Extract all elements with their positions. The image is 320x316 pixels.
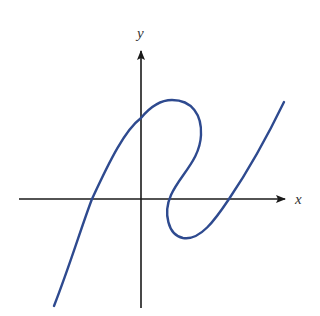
y-axis-label: y xyxy=(135,25,144,41)
curve xyxy=(54,100,284,306)
x-axis-label: x xyxy=(294,191,302,207)
diagram-canvas: x y xyxy=(0,0,320,316)
